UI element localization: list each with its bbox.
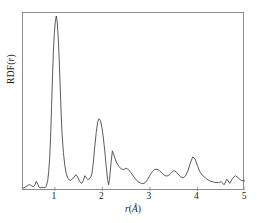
y-axis-label-suffix: ) — [6, 54, 16, 57]
x-tick-label: 2 — [93, 191, 109, 201]
x-tick-label: 3 — [141, 191, 157, 201]
x-axis-unit-close: ) — [138, 204, 141, 214]
x-axis-label: r(Å) — [22, 204, 244, 214]
plot-frame — [22, 12, 244, 190]
rdf-plot-svg — [23, 13, 245, 191]
x-tick-labels: 12345 — [22, 191, 244, 205]
x-tick-label: 4 — [188, 191, 204, 201]
x-tick-label: 1 — [46, 191, 62, 201]
y-axis-label-variable: r — [6, 58, 16, 62]
x-tick-label: 5 — [236, 191, 252, 201]
y-axis-label: RDF(r) — [6, 14, 16, 124]
rdf-curve — [23, 16, 245, 188]
rdf-figure: RDF(r) 12345 r(Å) — [0, 0, 257, 223]
y-axis-label-prefix: RDF( — [6, 61, 16, 83]
